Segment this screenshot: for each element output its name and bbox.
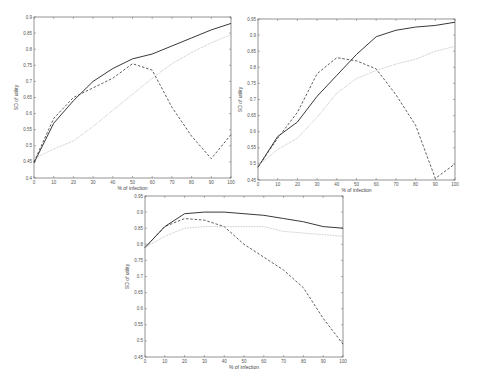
x-tick-label: 40	[222, 359, 228, 364]
x-tick-label: 90	[433, 182, 439, 187]
figure-canvas: 01020304050607080901000.40.450.50.550.60…	[0, 0, 477, 384]
y-tick-label: 0.85	[23, 31, 32, 36]
y-tick-label: 0.6	[26, 111, 33, 116]
x-tick-label: 20	[71, 180, 77, 185]
y-tick-label: 0.5	[250, 161, 257, 166]
x-tick-label: 20	[182, 359, 188, 364]
chart-top-left: 01020304050607080901000.40.450.50.550.60…	[13, 15, 235, 192]
y-tick-label: 0.6	[137, 306, 144, 311]
y-tick-label: 0.75	[23, 63, 32, 68]
x-tick-label: 80	[301, 359, 307, 364]
x-tick-label: 70	[169, 180, 175, 185]
y-tick-label: 0.5	[26, 143, 33, 148]
y-axis-label: SD of utility	[124, 263, 130, 289]
y-tick-label: 0.75	[247, 81, 256, 86]
x-axis-label: % of infection	[229, 364, 259, 370]
y-tick-label: 0.7	[26, 79, 33, 84]
y-tick-label: 0.55	[247, 145, 256, 150]
y-tick-label: 0.85	[134, 226, 143, 231]
y-tick-label: 0.5	[137, 338, 144, 343]
y-tick-label: 0.65	[134, 290, 143, 295]
x-tick-label: 30	[315, 182, 321, 187]
x-tick-label: 90	[321, 359, 327, 364]
plot-frame	[258, 19, 455, 180]
x-tick-label: 100	[339, 359, 347, 364]
y-tick-label: 0.65	[247, 113, 256, 118]
y-tick-label: 0.95	[134, 194, 143, 199]
x-tick-label: 0	[257, 182, 260, 187]
x-tick-label: 90	[209, 180, 215, 185]
x-tick-label: 60	[261, 359, 267, 364]
y-axis-label: SD of utility	[13, 84, 19, 110]
x-tick-label: 10	[275, 182, 281, 187]
y-tick-label: 0.55	[134, 322, 143, 327]
x-tick-label: 60	[374, 182, 380, 187]
x-tick-label: 30	[91, 180, 97, 185]
x-tick-label: 0	[33, 180, 36, 185]
y-tick-label: 0.75	[134, 258, 143, 263]
y-tick-label: 0.7	[250, 97, 257, 102]
y-tick-label: 0.45	[23, 159, 32, 164]
y-tick-label: 0.4	[26, 176, 33, 181]
x-axis-label: % of infection	[117, 185, 147, 191]
x-tick-label: 70	[393, 182, 399, 187]
x-tick-label: 30	[202, 359, 208, 364]
y-tick-label: 0.45	[247, 178, 256, 183]
x-tick-label: 60	[150, 180, 156, 185]
y-axis-label: SD of utility	[237, 86, 243, 112]
y-tick-label: 0.45	[134, 355, 143, 360]
plot-frame	[34, 17, 231, 178]
x-tick-label: 0	[144, 359, 147, 364]
y-tick-label: 0.7	[137, 274, 144, 279]
chart-bottom-center: 01020304050607080901000.450.50.550.60.65…	[124, 194, 347, 371]
x-tick-label: 40	[110, 180, 116, 185]
y-tick-label: 0.85	[247, 49, 256, 54]
y-tick-label: 0.95	[247, 17, 256, 22]
y-tick-label: 0.8	[137, 242, 144, 247]
y-tick-label: 0.65	[23, 95, 32, 100]
x-tick-label: 70	[281, 359, 287, 364]
x-tick-label: 80	[413, 182, 419, 187]
y-tick-label: 0.8	[26, 47, 33, 52]
chart-top-right: 01020304050607080901000.450.50.550.60.65…	[237, 17, 459, 194]
x-tick-label: 20	[295, 182, 301, 187]
x-tick-label: 10	[162, 359, 168, 364]
x-tick-label: 10	[51, 180, 57, 185]
y-tick-label: 0.8	[250, 65, 257, 70]
y-tick-label: 0.9	[137, 210, 144, 215]
y-tick-label: 0.55	[23, 127, 32, 132]
x-axis-label: % of infection	[341, 187, 371, 193]
y-tick-label: 0.9	[250, 33, 257, 38]
x-tick-label: 100	[451, 182, 459, 187]
x-tick-label: 80	[189, 180, 195, 185]
y-tick-label: 0.9	[26, 15, 33, 20]
y-tick-label: 0.6	[250, 129, 257, 134]
x-tick-label: 40	[334, 182, 340, 187]
x-tick-label: 100	[227, 180, 235, 185]
